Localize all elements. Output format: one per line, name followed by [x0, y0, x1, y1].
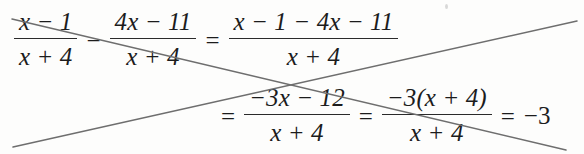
- denominator: x + 4: [405, 116, 468, 146]
- minus-operator: −: [77, 28, 109, 53]
- fraction-x-minus-1-over-x-plus-4: x − 1 x + 4: [14, 8, 77, 70]
- numerator: x − 1 − 4x − 11: [229, 8, 399, 37]
- scanned-math-work-page: x − 1 x + 4 − 4x − 11 x + 4 = x − 1 − 4x…: [0, 0, 584, 154]
- fraction-bar: [14, 38, 77, 39]
- numerator: 4x − 11: [110, 8, 197, 37]
- fraction-combined-numerator-over-x-plus-4: x − 1 − 4x − 11 x + 4: [229, 8, 399, 70]
- denominator: x + 4: [121, 40, 184, 70]
- fraction-4x-minus-11-over-x-plus-4: 4x − 11 x + 4: [110, 8, 197, 70]
- numerator: x − 1: [14, 8, 77, 37]
- fraction-bar: [110, 38, 197, 39]
- fraction-bar: [382, 114, 492, 115]
- final-result: −3: [524, 103, 551, 128]
- numerator: −3(x + 4): [382, 84, 492, 113]
- equals-sign-1: =: [212, 104, 244, 129]
- fraction-bar: [229, 38, 399, 39]
- numerator: −3x − 12: [244, 84, 350, 113]
- denominator: x + 4: [282, 40, 345, 70]
- equals-sign-2: =: [350, 104, 382, 129]
- scan-speck-artifact: [445, 4, 448, 9]
- equation-line-1: x − 1 x + 4 − 4x − 11 x + 4 = x − 1 − 4x…: [14, 8, 398, 70]
- fraction-neg3-times-x-plus-4-over-x-plus-4: −3(x + 4) x + 4: [382, 84, 492, 146]
- equals-sign-3: =: [492, 104, 524, 129]
- denominator: x + 4: [265, 116, 328, 146]
- fraction-neg3x-minus-12-over-x-plus-4: −3x − 12 x + 4: [244, 84, 350, 146]
- equals-sign: =: [196, 28, 228, 53]
- equation-line-2: = −3x − 12 x + 4 = −3(x + 4) x + 4 = −3: [212, 84, 550, 146]
- fraction-bar: [244, 114, 350, 115]
- denominator: x + 4: [14, 40, 77, 70]
